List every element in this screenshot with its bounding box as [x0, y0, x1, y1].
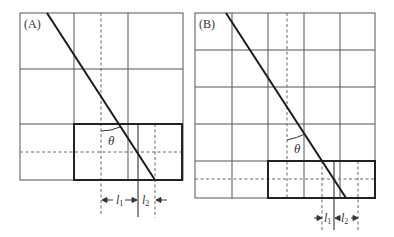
- panel-b-l1-label: l1: [324, 211, 331, 226]
- panel-b: θ (B) l1 l2: [195, 13, 375, 232]
- panel-a-label: (A): [24, 17, 41, 31]
- diagram-canvas: θ (A) l1 l2 θ: [0, 0, 394, 237]
- panel-b-label: (B): [199, 17, 215, 31]
- panel-a-diagonal-ray: [47, 13, 155, 180]
- panel-a-l1-arrowhead-right: [132, 198, 137, 203]
- panel-b-theta-arc: [287, 134, 305, 140]
- panel-a: θ (A) l1 l2: [20, 13, 183, 218]
- panel-b-diagonal-ray: [226, 13, 346, 198]
- panel-b-l1-arrowhead: [317, 216, 322, 221]
- panel-b-l2-label: l2: [341, 211, 348, 226]
- panel-b-l2-arrowhead-right: [353, 216, 358, 221]
- panel-a-l2-arrowhead: [156, 198, 161, 203]
- panel-a-theta-arc: [101, 127, 120, 131]
- panel-b-l2-arrowhead-left: [335, 216, 340, 221]
- panel-a-theta-label: θ: [108, 133, 115, 148]
- panel-a-l2-label: l2: [142, 193, 149, 208]
- panel-b-theta-label: θ: [294, 141, 301, 156]
- panel-a-l1-arrowhead-left: [102, 198, 107, 203]
- panel-a-l1-label: l1: [116, 193, 123, 208]
